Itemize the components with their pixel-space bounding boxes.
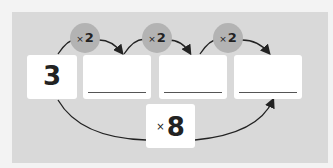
start-value-box: 3	[27, 55, 77, 99]
operation-bubble-3: ×2	[213, 23, 243, 53]
answer-line-1	[88, 92, 146, 94]
operation-bubble-1: ×2	[70, 23, 100, 53]
answer-box-1[interactable]	[83, 55, 151, 99]
answer-line-3	[239, 92, 297, 94]
answer-box-2[interactable]	[159, 55, 227, 99]
operation-bubble-2: ×2	[142, 23, 172, 53]
combined-operation-box: ×8	[146, 104, 195, 148]
answer-line-2	[164, 92, 222, 94]
answer-box-3[interactable]	[234, 55, 302, 99]
